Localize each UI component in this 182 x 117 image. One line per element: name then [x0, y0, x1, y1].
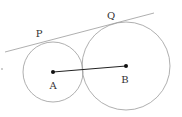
segment-ab — [53, 66, 126, 72]
point-a — [51, 70, 55, 74]
common-tangent-line — [5, 13, 154, 52]
label-p: P — [36, 28, 43, 39]
label-a: A — [48, 80, 57, 91]
stray-dot — [1, 68, 2, 69]
label-b: B — [121, 74, 128, 85]
tangent-circles-diagram: P Q A B — [0, 0, 182, 117]
label-q: Q — [107, 10, 115, 21]
point-b — [124, 64, 128, 68]
